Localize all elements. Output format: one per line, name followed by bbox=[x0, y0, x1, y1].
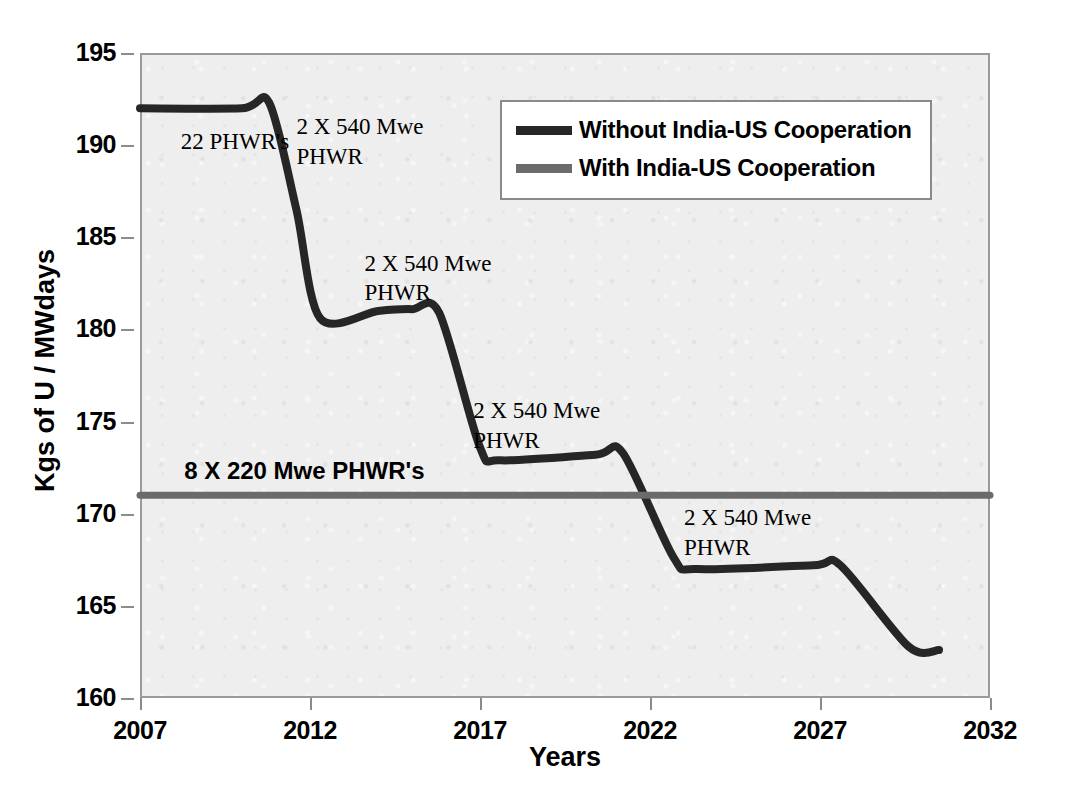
legend-swatch-with bbox=[516, 164, 572, 173]
y-tick-mark bbox=[121, 237, 134, 239]
x-tick-label: 2007 bbox=[80, 716, 200, 745]
legend-entry-without: Without India-US Cooperation bbox=[516, 111, 912, 149]
y-axis-title: Kgs of U / MWdays bbox=[30, 171, 61, 571]
y-tick-mark bbox=[121, 53, 134, 55]
x-axis-title: Years bbox=[140, 742, 990, 773]
legend-swatch-without bbox=[516, 126, 572, 135]
y-tick-label: 160 bbox=[16, 683, 116, 712]
annotation-5: 2 X 540 Mwe PHWR bbox=[684, 503, 811, 562]
annotation-0: 22 PHWR's bbox=[181, 127, 289, 156]
x-tick-mark bbox=[140, 698, 142, 710]
legend-entry-with: With India-US Cooperation bbox=[516, 149, 912, 187]
x-tick-mark bbox=[820, 698, 822, 710]
y-tick-mark bbox=[121, 329, 134, 331]
y-tick-mark bbox=[121, 145, 134, 147]
y-tick-mark bbox=[121, 698, 134, 700]
y-tick-mark bbox=[121, 514, 134, 516]
x-tick-label: 2027 bbox=[760, 716, 880, 745]
x-tick-label: 2032 bbox=[930, 716, 1050, 745]
annotation-2: 2 X 540 Mwe PHWR bbox=[364, 249, 491, 308]
legend: Without India-US Cooperation With India-… bbox=[500, 100, 932, 200]
y-tick-mark bbox=[121, 606, 134, 608]
x-tick-mark bbox=[650, 698, 652, 710]
y-tick-mark bbox=[121, 422, 134, 424]
x-tick-label: 2022 bbox=[590, 716, 710, 745]
annotation-4: 2 X 540 Mwe PHWR bbox=[473, 396, 600, 455]
x-tick-label: 2017 bbox=[420, 716, 540, 745]
x-tick-mark bbox=[990, 698, 992, 710]
y-tick-label: 190 bbox=[16, 130, 116, 159]
legend-label-with: With India-US Cooperation bbox=[579, 154, 875, 182]
y-tick-label: 195 bbox=[16, 38, 116, 67]
x-tick-label: 2012 bbox=[250, 716, 370, 745]
y-tick-label: 165 bbox=[16, 591, 116, 620]
annotation-3: 8 X 220 Mwe PHWR's bbox=[184, 457, 424, 485]
x-tick-mark bbox=[480, 698, 482, 710]
x-tick-mark bbox=[310, 698, 312, 710]
chart-figure: 160165170175180185190195 200720122017202… bbox=[0, 0, 1068, 795]
annotation-1: 2 X 540 Mwe PHWR bbox=[296, 112, 423, 171]
legend-label-without: Without India-US Cooperation bbox=[579, 116, 912, 144]
